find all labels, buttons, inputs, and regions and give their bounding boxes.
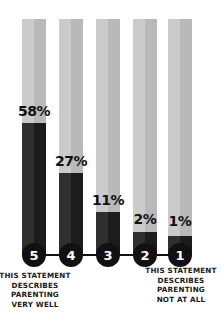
bar-track-5 bbox=[22, 19, 46, 255]
rank-circle-2: 2 bbox=[133, 243, 157, 267]
bar-track-4 bbox=[59, 19, 83, 255]
value-label-4: 27% bbox=[46, 153, 96, 169]
caption-line: THIS STATEMENT bbox=[141, 266, 221, 276]
value-label-3: 11% bbox=[83, 192, 133, 208]
rank-circle-3: 3 bbox=[96, 243, 120, 267]
caption-not-at-all: THIS STATEMENT DESCRIBES PARENTING NOT A… bbox=[141, 266, 221, 304]
caption-line: THIS STATEMENT bbox=[0, 271, 75, 281]
caption-very-well: THIS STATEMENT DESCRIBES PARENTING VERY … bbox=[0, 271, 75, 309]
percentage-bar-chart: 58% 27% 11% 2% 1% 5 4 3 2 1 THIS STATEME… bbox=[0, 0, 222, 316]
rank-circle-5: 5 bbox=[22, 243, 46, 267]
caption-line: DESCRIBES bbox=[0, 281, 75, 291]
value-label-5: 58% bbox=[9, 103, 59, 119]
rank-circle-1: 1 bbox=[168, 243, 192, 267]
value-label-1: 1% bbox=[155, 213, 205, 229]
caption-line: PARENTING bbox=[141, 285, 221, 295]
bar-track-3 bbox=[96, 19, 120, 255]
caption-line: NOT AT ALL bbox=[141, 295, 221, 305]
bar-fill-5 bbox=[22, 123, 46, 255]
rank-circle-4: 4 bbox=[59, 243, 83, 267]
caption-line: PARENTING bbox=[0, 290, 75, 300]
caption-line: VERY WELL bbox=[0, 300, 75, 310]
caption-line: DESCRIBES bbox=[141, 276, 221, 286]
